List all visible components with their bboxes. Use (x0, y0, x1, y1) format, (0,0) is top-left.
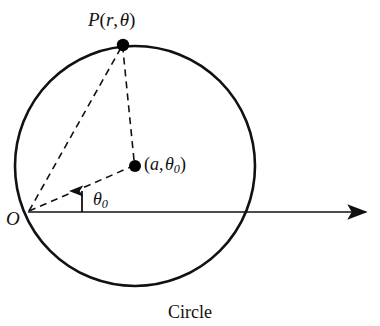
label-point-p-theta: θ (120, 9, 129, 30)
point-p-marker (117, 39, 129, 51)
label-point-p: P(r, θ) (88, 10, 135, 29)
label-point-p-comma: , (113, 9, 118, 30)
label-origin: O (6, 209, 20, 228)
point-center-marker (129, 160, 141, 172)
segment-origin-to-center (29, 166, 133, 211)
label-center-close-paren: ) (180, 154, 186, 174)
diagram-canvas (0, 0, 380, 326)
label-center-theta: θ (165, 154, 174, 174)
figure-caption: Circle (0, 303, 380, 321)
segment-origin-to-p (29, 46, 122, 211)
label-center-coordinates: (a, θ0) (144, 155, 186, 176)
label-center-comma: , (159, 154, 164, 174)
circle-polar-diagram: P(r, θ) (a, θ0) θ0 O Circle (0, 0, 380, 326)
label-angle-theta0: θ0 (93, 190, 108, 211)
label-point-p-close-paren: ) (129, 9, 135, 30)
segment-center-to-p (123, 50, 134, 160)
label-angle-theta: θ (93, 189, 102, 209)
label-angle-theta-subscript: 0 (102, 197, 108, 211)
label-point-p-name: P (88, 9, 100, 30)
label-center-a: a (150, 154, 159, 174)
